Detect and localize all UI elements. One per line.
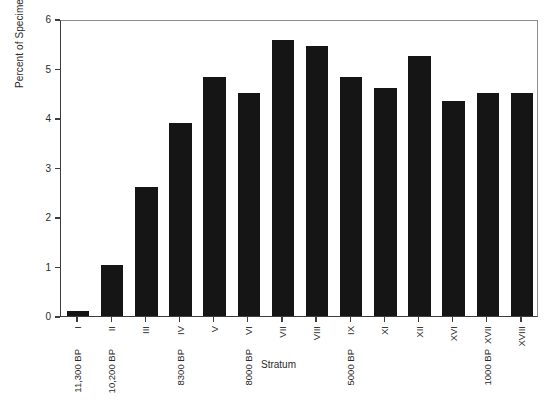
x-tick-label-roman: VII bbox=[282, 314, 293, 326]
x-tick-label-roman: XI bbox=[384, 317, 395, 326]
bar bbox=[306, 46, 329, 316]
y-tick-label: 0 bbox=[45, 310, 51, 323]
bar-chart-figure: Percent of Specimens per Stratum 0123456… bbox=[0, 0, 557, 401]
plot-area bbox=[60, 20, 538, 317]
bar bbox=[340, 77, 363, 316]
y-tick-label: 5 bbox=[45, 63, 51, 76]
bar bbox=[169, 123, 192, 316]
x-tick-label-roman: VIII bbox=[316, 312, 327, 326]
x-tick-label-date: 5000 BP bbox=[350, 313, 361, 349]
y-tick-label: 4 bbox=[45, 112, 51, 125]
y-axis-title: Percent of Specimens per Stratum bbox=[14, 0, 25, 90]
x-tick-label-roman: XVI bbox=[453, 311, 464, 326]
x-tick-label-roman: XVIII bbox=[521, 305, 532, 326]
x-tick-label-date: 8000 BP bbox=[248, 313, 259, 349]
x-tick-label-date: 10,200 BP bbox=[111, 305, 122, 349]
y-tick-label: 1 bbox=[45, 261, 51, 274]
bar bbox=[135, 187, 158, 316]
bar bbox=[374, 88, 397, 316]
bars-layer bbox=[61, 21, 537, 316]
bar bbox=[442, 101, 465, 316]
x-tick-label-roman: XII bbox=[419, 314, 430, 326]
x-tick-label-date: 1000 BP bbox=[487, 313, 498, 349]
x-tick-label-roman: III bbox=[145, 318, 156, 326]
bar bbox=[238, 93, 261, 316]
bar bbox=[272, 40, 295, 316]
x-tick-label-date: 8300 BP bbox=[180, 313, 191, 349]
y-tick-label: 6 bbox=[45, 13, 51, 26]
x-axis-title: Stratum bbox=[0, 359, 557, 370]
x-tick-label-roman: V bbox=[214, 320, 225, 326]
bar bbox=[511, 93, 534, 316]
bar bbox=[203, 77, 226, 316]
x-tick-label-date: 11,300 BP bbox=[77, 305, 88, 349]
bar bbox=[408, 56, 431, 316]
y-tick-label: 3 bbox=[45, 162, 51, 175]
y-tick-label: 2 bbox=[45, 211, 51, 224]
bar bbox=[477, 93, 500, 316]
